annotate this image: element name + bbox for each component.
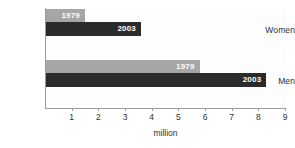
x-tick-mark (125, 108, 126, 111)
x-tick-label: 9 (276, 113, 294, 122)
x-tick-mark (178, 108, 179, 111)
x-tick-label: 5 (169, 113, 187, 122)
bar-women-1979: 1979 (46, 9, 85, 22)
category-label-women: Women (253, 26, 295, 35)
x-axis-line (45, 108, 286, 109)
x-tick-label: 2 (89, 113, 107, 122)
x-tick-label: 6 (196, 113, 214, 122)
bar-men-1979: 1979 (46, 60, 200, 73)
x-tick-mark (258, 108, 259, 111)
x-tick-mark (98, 108, 99, 111)
bar-label-men-1979: 1979 (176, 63, 195, 71)
x-tick-label: 8 (249, 113, 267, 122)
x-tick-mark (152, 108, 153, 111)
x-tick-label: 3 (116, 113, 134, 122)
bar-label-men-2003: 2003 (243, 76, 262, 84)
bar-women-2003: 2003 (46, 22, 141, 36)
x-tick-label: 1 (63, 113, 81, 122)
bar-men-2003: 2003 (46, 73, 266, 87)
bar-chart: Women Men 1979 2003 1979 2003 123456789 … (0, 0, 295, 148)
x-axis-title: million (45, 129, 286, 138)
x-tick-mark (72, 108, 73, 111)
x-tick-label: 4 (143, 113, 161, 122)
x-tick-mark (205, 108, 206, 111)
x-tick-label: 7 (223, 113, 241, 122)
bar-label-women-1979: 1979 (61, 12, 80, 20)
bar-label-women-2003: 2003 (117, 25, 136, 33)
x-tick-mark (285, 108, 286, 111)
x-tick-mark (232, 108, 233, 111)
